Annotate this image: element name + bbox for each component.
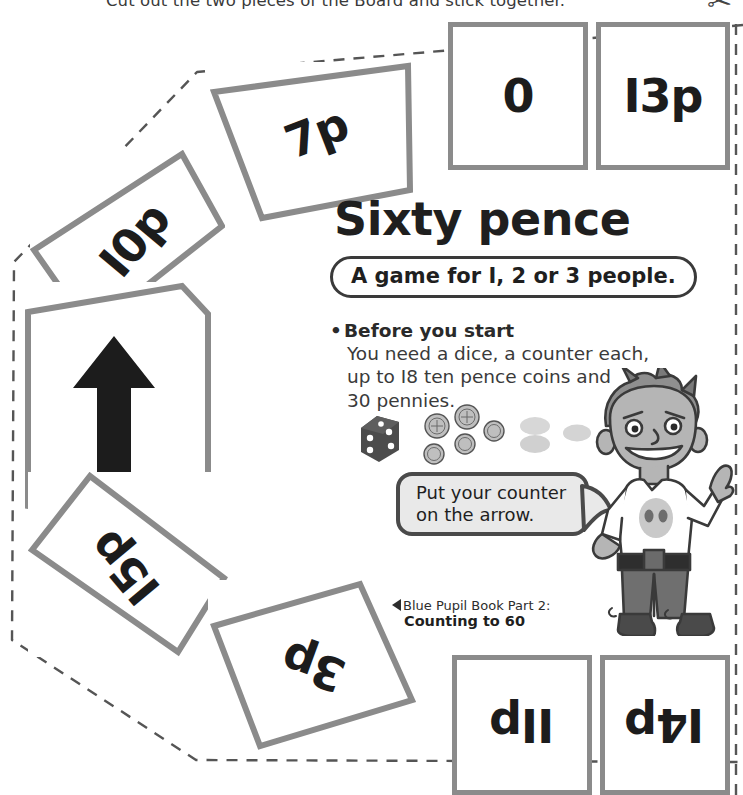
bullet-icon: • (330, 320, 344, 341)
board-cell-13p[interactable]: I3p (596, 22, 730, 170)
board-cell-0-label: 0 (502, 73, 533, 119)
materials-line-1: You need a dice, a counter each, (347, 342, 690, 365)
players-badge: A game for I, 2 or 3 people. (330, 256, 697, 298)
worksheet-page: Cut out the two pieces of the Board and … (0, 0, 743, 795)
equipment-illustration (355, 402, 595, 472)
up-arrow-icon (71, 332, 157, 484)
speech-bubble-line-1: Put your counter (416, 482, 585, 504)
speech-bubble-line-2: on the arrow. (416, 504, 585, 526)
board-cell-14p[interactable]: I4p (600, 655, 730, 795)
board-cell-3p[interactable]: 3p (208, 580, 418, 750)
board-cell-0[interactable]: 0 (448, 22, 588, 170)
credit-line-1: Blue Pupil Book Part 2: (392, 598, 592, 613)
board-cell-11p-label: IIp (490, 702, 554, 748)
before-you-start-heading: •Before you start (330, 320, 690, 341)
speech-bubble: Put your counter on the arrow. (396, 472, 589, 536)
page-title: Sixty pence (334, 196, 690, 242)
credit-line-2: Counting to 60 (404, 613, 592, 629)
alien-face-icon (639, 498, 673, 538)
dice-icon (361, 416, 399, 462)
cartoon-boy-character (572, 368, 740, 636)
credit-book-label: Blue Pupil Book Part 2: (403, 598, 550, 613)
board-cell-14p-label: I4p (625, 702, 704, 748)
board-cell-13p-label: I3p (623, 73, 702, 119)
book-credit: Blue Pupil Book Part 2: Counting to 60 (392, 598, 592, 629)
board-cell-11p[interactable]: IIp (452, 655, 592, 795)
before-you-start-label: Before you start (344, 320, 514, 341)
left-triangle-icon (392, 599, 401, 611)
board-cell-15p[interactable]: I5p (28, 472, 228, 657)
ten-pence-coin-icon (424, 405, 504, 464)
